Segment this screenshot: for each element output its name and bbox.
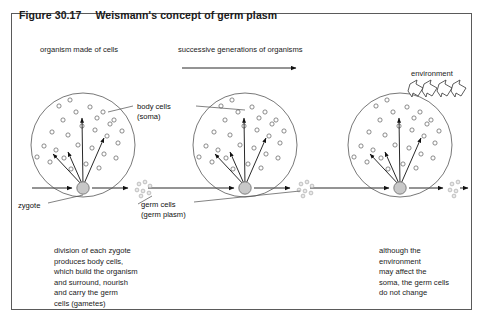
- figure-number: Figure 30.17: [19, 9, 81, 21]
- figure-title: Weismann's concept of germ plasm: [95, 9, 277, 21]
- caption-right: although the environment may affect the …: [379, 246, 449, 299]
- figure-root: Figure 30.17Weismann's concept of germ p…: [0, 0, 487, 323]
- figure-header: Figure 30.17Weismann's concept of germ p…: [19, 9, 277, 21]
- caption-left: division of each zygote produces body ce…: [54, 246, 138, 310]
